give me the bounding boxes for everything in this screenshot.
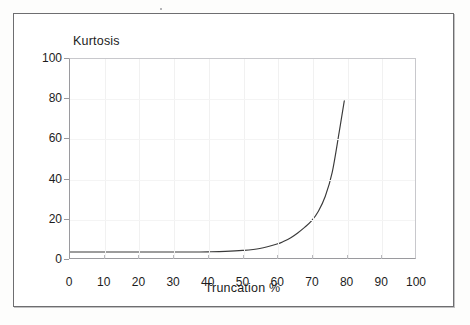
- gridline-vertical: [139, 59, 140, 258]
- gridline-horizontal: [70, 99, 415, 100]
- x-tick-mark: [347, 255, 348, 259]
- gridline-vertical: [209, 59, 210, 258]
- chart-page: Kurtosis Truncation % 020406080100010203…: [0, 0, 470, 325]
- y-tick-label: 100: [24, 51, 62, 65]
- x-tick-mark: [381, 255, 382, 259]
- figure-frame: Kurtosis Truncation % 020406080100010203…: [13, 13, 454, 307]
- y-tick-label: 80: [24, 91, 62, 105]
- y-tick-mark: [64, 179, 69, 180]
- x-tick-mark: [173, 255, 174, 259]
- y-tick-label: 40: [24, 172, 62, 186]
- x-tick-mark: [104, 255, 105, 259]
- gridline-horizontal: [70, 180, 415, 181]
- gridline-vertical: [244, 59, 245, 258]
- x-tick-label: 100: [396, 275, 436, 289]
- y-tick-label: 20: [24, 212, 62, 226]
- y-tick-mark: [64, 138, 69, 139]
- y-tick-label: 0: [24, 252, 62, 266]
- gridline-vertical: [174, 59, 175, 258]
- y-tick-mark: [64, 259, 69, 260]
- gridline-vertical: [382, 59, 383, 258]
- plot-area: [69, 58, 416, 259]
- x-tick-mark: [312, 255, 313, 259]
- y-tick-label: 60: [24, 131, 62, 145]
- gridline-horizontal: [70, 220, 415, 221]
- gridline-vertical: [105, 59, 106, 258]
- kurtosis-curve: [70, 59, 415, 258]
- y-tick-mark: [64, 219, 69, 220]
- y-tick-mark: [64, 98, 69, 99]
- y-axis-title: Kurtosis: [73, 34, 120, 48]
- gridline-horizontal: [70, 139, 415, 140]
- scan-speck: [160, 8, 162, 10]
- gridline-vertical: [348, 59, 349, 258]
- x-tick-mark: [208, 255, 209, 259]
- gridline-vertical: [278, 59, 279, 258]
- gridline-vertical: [313, 59, 314, 258]
- x-tick-mark: [277, 255, 278, 259]
- x-tick-mark: [243, 255, 244, 259]
- y-tick-mark: [64, 58, 69, 59]
- x-tick-mark: [138, 255, 139, 259]
